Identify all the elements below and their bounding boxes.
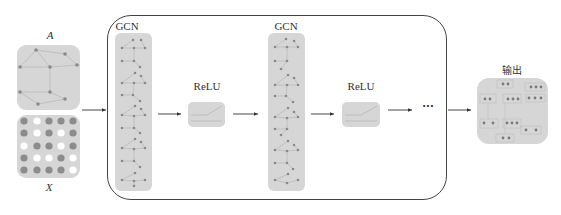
relu-2-curve: [345, 106, 377, 121]
gcn-1-graph: [121, 39, 147, 188]
gcn-2-graph: [274, 38, 300, 185]
output-graph-pattern: [480, 80, 545, 142]
relu-1-curve: [191, 106, 222, 121]
feature-grid: [20, 117, 76, 173]
adjacency-edges: [20, 50, 77, 104]
flow-arrows: [82, 110, 471, 114]
diagram-graphics: [0, 0, 561, 215]
